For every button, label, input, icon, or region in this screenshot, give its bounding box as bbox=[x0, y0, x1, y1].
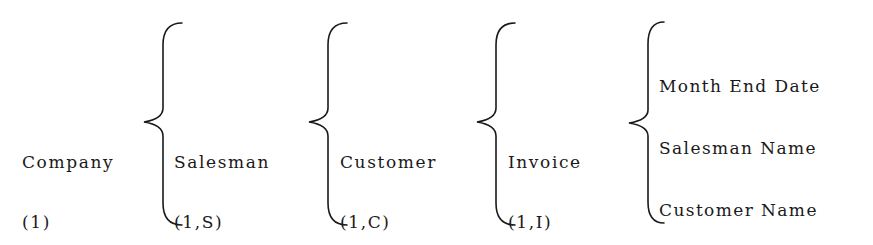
node-company-name: Company bbox=[22, 152, 114, 172]
attribute-customer-name: Customer Name bbox=[659, 200, 821, 221]
node-customer-repetition: (1,C) bbox=[340, 212, 437, 232]
attribute-salesman-name: Salesman Name bbox=[659, 138, 821, 159]
node-customer: Customer (1,C) bbox=[340, 112, 437, 245]
node-salesman-name: Salesman bbox=[174, 152, 270, 172]
node-invoice: Invoice (1,I) bbox=[508, 112, 582, 245]
invoice-attribute-list: Month End Date Salesman Name Customer Na… bbox=[659, 35, 821, 245]
node-invoice-repetition: (1,I) bbox=[508, 212, 582, 232]
node-invoice-name: Invoice bbox=[508, 152, 582, 172]
node-company: Company (1) bbox=[22, 112, 114, 245]
node-customer-name: Customer bbox=[340, 152, 437, 172]
node-salesman-repetition: (1,S) bbox=[174, 212, 270, 232]
node-salesman: Salesman (1,S) bbox=[174, 112, 270, 245]
node-company-repetition: (1) bbox=[22, 212, 114, 232]
attribute-month-end-date: Month End Date bbox=[659, 76, 821, 97]
